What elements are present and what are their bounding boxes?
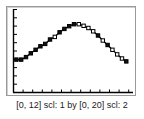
data-point	[106, 43, 109, 46]
data-point	[39, 45, 42, 48]
data-point	[34, 48, 37, 51]
data-point	[53, 35, 56, 38]
data-point	[68, 25, 71, 28]
data-point	[44, 42, 47, 45]
data-point	[24, 55, 27, 58]
window-settings-caption: [0, 12] scl: 1 by [0, 20] scl: 2	[0, 99, 144, 111]
data-point	[15, 58, 18, 61]
data-point	[20, 58, 23, 61]
data-point	[92, 30, 95, 33]
data-point	[87, 26, 90, 29]
data-point	[77, 23, 80, 26]
fitted-curve	[16, 24, 126, 61]
data-point	[29, 52, 32, 55]
data-point	[125, 60, 128, 63]
data-point	[72, 23, 75, 26]
axes	[13, 9, 133, 93]
calculator-screen-frame	[6, 6, 136, 96]
data-point	[63, 27, 66, 30]
plot-canvas	[7, 7, 135, 95]
graph-figure: [0, 12] scl: 1 by [0, 20] scl: 2	[0, 0, 144, 119]
data-point	[101, 39, 104, 42]
data-point	[116, 53, 119, 56]
data-point-markers	[15, 23, 128, 64]
data-point	[48, 38, 51, 41]
data-point	[111, 48, 114, 51]
data-point	[82, 24, 85, 27]
data-point	[58, 31, 61, 34]
data-point	[120, 57, 123, 60]
data-point	[96, 34, 99, 37]
